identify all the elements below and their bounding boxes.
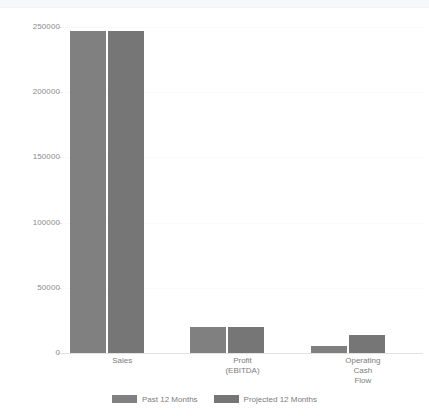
x-axis-label-line: Cash	[318, 366, 408, 376]
bar-projected[interactable]	[228, 327, 264, 353]
legend-swatch	[112, 395, 137, 403]
x-axis-label-line: Sales	[77, 356, 167, 366]
x-axis-label-line: Operating	[318, 356, 408, 366]
legend-swatch	[214, 395, 239, 403]
y-axis-tick-label: 100000	[6, 219, 60, 227]
bar-group	[62, 14, 182, 354]
bar-past[interactable]	[311, 346, 347, 353]
x-axis-label-line: (EBITDA)	[198, 366, 288, 376]
x-axis-label-line: Flow	[318, 376, 408, 386]
bar-group	[182, 14, 302, 354]
plot-area: 050000100000150000200000250000	[0, 14, 429, 354]
legend-item[interactable]: Past 12 Months	[112, 395, 198, 404]
y-axis-tick-label: 50000	[6, 284, 60, 292]
header-strip	[0, 0, 429, 8]
y-axis-tick-label: 200000	[6, 88, 60, 96]
x-axis-label: Sales	[77, 356, 167, 366]
x-axis-label: OperatingCashFlow	[318, 356, 408, 386]
x-axis-label-line: Profit	[198, 356, 288, 366]
chart-legend: Past 12 MonthsProjected 12 Months	[0, 392, 429, 406]
legend-label: Past 12 Months	[142, 395, 198, 404]
y-axis: 050000100000150000200000250000	[4, 14, 60, 354]
bar-past[interactable]	[70, 31, 106, 353]
legend-item[interactable]: Projected 12 Months	[214, 395, 317, 404]
y-axis-tick-label: 250000	[6, 23, 60, 31]
bar-projected[interactable]	[108, 31, 144, 353]
bar-projected[interactable]	[349, 335, 385, 353]
legend-label: Projected 12 Months	[244, 395, 317, 404]
bar-past[interactable]	[190, 327, 226, 353]
y-axis-tick-label: 150000	[6, 153, 60, 161]
x-axis-label: Profit(EBITDA)	[198, 356, 288, 376]
bar-group	[303, 14, 423, 354]
y-axis-tick-label: 0	[6, 349, 60, 357]
bars-layer	[62, 14, 423, 354]
bar-chart-widget: 050000100000150000200000250000 SalesProf…	[0, 0, 429, 416]
